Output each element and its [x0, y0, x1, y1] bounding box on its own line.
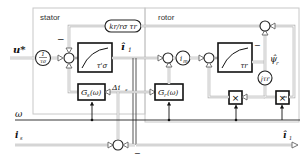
- stator-integrator-block: τ'σ: [78, 43, 112, 72]
- stator-sum-junction: [64, 53, 74, 63]
- minus-sign-stator: −: [57, 34, 65, 44]
- svg-text:(ω): (ω): [90, 89, 101, 97]
- rotor-top-sum: [260, 21, 270, 31]
- measured-current-line: [15, 142, 113, 148]
- minus-sign-rotor: −: [254, 41, 261, 50]
- observer-block-diagram: stator rotor u* 1 τσ − kr/rσ τr: [0, 0, 308, 160]
- flux-gain-block: kr/rσ τr: [105, 20, 141, 32]
- svg-text:1: 1: [128, 46, 132, 53]
- stator-current-line: [112, 55, 163, 61]
- svg-text:m: m: [183, 58, 188, 64]
- stator-current-label: î: [121, 41, 126, 52]
- measured-current-label: i: [15, 130, 19, 140]
- input-voltage-label: u*: [13, 44, 26, 55]
- svg-text:τσ: τσ: [40, 58, 47, 64]
- svg-text:r: r: [276, 60, 279, 66]
- current-error-label: Δi: [111, 83, 121, 92]
- svg-text:(ω): (ω): [167, 89, 178, 97]
- flux-to-mult1: [242, 94, 265, 100]
- gr-to-sum-line: [166, 62, 172, 84]
- svg-text:i: i: [180, 55, 182, 63]
- gs-to-sum-line: [66, 63, 78, 92]
- rotor-sum-1: [163, 53, 173, 63]
- stator-current-down-line: [133, 58, 136, 145]
- svg-text:1: 1: [41, 51, 45, 57]
- rotor-integrator-block: τr: [218, 43, 252, 72]
- magnetizing-current-node: i m: [176, 51, 190, 65]
- multiplier-1: ×: [229, 91, 242, 104]
- stator-gain-block: G s (ω): [78, 84, 105, 100]
- stator-label: stator: [40, 13, 60, 22]
- svg-text:×: ×: [279, 93, 287, 103]
- gain-in-node: 1 τσ: [36, 51, 51, 66]
- rotor-gain-block: G r (ω): [155, 84, 183, 100]
- output-current-label: î: [283, 130, 287, 140]
- rotor-label: rotor: [158, 13, 175, 22]
- svg-text:×: ×: [232, 93, 240, 103]
- output-current-line: [136, 142, 298, 148]
- svg-text:s: s: [20, 135, 23, 141]
- svg-text:kr/rσ τr: kr/rσ τr: [109, 23, 137, 31]
- rotor-time-const-node: jτr: [258, 71, 272, 85]
- minus-sign-error: −: [134, 149, 141, 158]
- error-sum-junction: [113, 140, 123, 150]
- svg-text:1: 1: [289, 135, 292, 141]
- svg-text:τr: τr: [240, 62, 248, 70]
- im-to-sum: [190, 55, 204, 61]
- svg-text:τ'σ: τ'σ: [97, 62, 108, 70]
- gain-to-sum: [51, 55, 63, 61]
- omega-label: ω: [15, 109, 23, 119]
- svg-text:jτr: jτr: [259, 75, 271, 83]
